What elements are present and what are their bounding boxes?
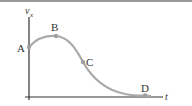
point-d-label: D xyxy=(141,82,149,94)
point-a-label: A xyxy=(17,42,25,54)
point-a-marker xyxy=(27,45,31,49)
point-b-label: B xyxy=(51,21,58,33)
x-axis-label: t xyxy=(165,91,168,102)
velocity-time-graph: v x t A B C D xyxy=(0,0,192,106)
point-c-label: C xyxy=(86,56,93,68)
y-axis-label-subscript: x xyxy=(29,11,34,19)
point-b-marker xyxy=(54,34,58,38)
point-c-marker xyxy=(81,60,85,64)
